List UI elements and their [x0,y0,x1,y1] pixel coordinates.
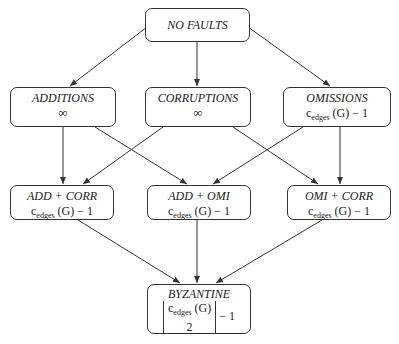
ceiling-bracket: cedges (G) 2 [163,301,216,334]
node-title: CORRUPTIONS [146,91,250,105]
value-rest: (G) − 1 [192,204,230,218]
node-omi-corr: OMI + CORR cedges (G) − 1 [287,185,391,220]
value-subscript: edges [173,308,191,317]
node-no-faults: NO FAULTS [145,8,250,42]
edge-corruptions-omicorr [233,127,318,184]
value-rest: − 1 [216,309,235,323]
node-value: cedges (G) − 1 [284,106,390,125]
edge-nofaults-omissions [248,27,330,86]
node-additions: ADDITIONS ∞ [10,87,116,127]
node-title: OMI + CORR [288,189,390,203]
edge-omicorr-byzantine [216,220,322,283]
edge-nofaults-additions [70,27,147,86]
infinity-value: ∞ [146,106,250,120]
value-subscript: edges [36,211,54,220]
value-rest: (G) − 1 [330,106,368,120]
denominator: 2 [168,320,211,334]
node-title: ADD + CORR [11,189,113,203]
infinity-value: ∞ [11,106,115,120]
value-subscript: edges [311,113,329,122]
node-value: cedges (G) − 1 [148,204,250,223]
edge-additions-addomi [95,127,187,184]
node-add-omi: ADD + OMI cedges (G) − 1 [147,185,251,220]
node-omissions: OMISSIONS cedges (G) − 1 [283,87,391,127]
edge-omissions-addomi [213,127,303,184]
numerator: cedges (G) [168,301,211,320]
node-title: BYZANTINE [148,287,250,301]
value-subscript: edges [173,211,191,220]
node-title: ADDITIONS [11,91,115,105]
value-subscript: edges [313,211,331,220]
value-rest: (G) − 1 [55,204,93,218]
node-value: cedges (G) 2 − 1 [148,301,250,334]
node-value: cedges (G) − 1 [288,204,390,223]
value-rest: (G) − 1 [332,204,370,218]
edge-addcorr-byzantine [78,220,180,283]
edge-corruptions-addcorr [83,127,163,184]
node-title: NO FAULTS [146,18,249,32]
node-corruptions: CORRUPTIONS ∞ [145,87,251,127]
node-value: cedges (G) − 1 [11,204,113,223]
node-title: ADD + OMI [148,189,250,203]
value-arg: (G) [192,301,212,315]
node-title: OMISSIONS [284,91,390,105]
node-byzantine: BYZANTINE cedges (G) 2 − 1 [147,284,251,334]
node-add-corr: ADD + CORR cedges (G) − 1 [10,185,114,220]
